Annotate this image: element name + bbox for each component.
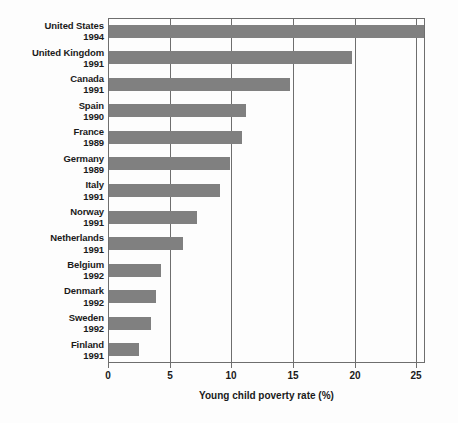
category-year: 1989 [0, 137, 104, 148]
category-label: United States1994 [0, 20, 104, 42]
bar [109, 290, 156, 303]
x-tick-15 [293, 363, 294, 368]
x-axis-title: Young child poverty rate (%) [108, 390, 425, 401]
category-year: 1991 [0, 350, 104, 361]
bar [109, 264, 161, 277]
bar [109, 237, 183, 250]
plot-frame-top [108, 18, 425, 19]
category-label: Canada1991 [0, 73, 104, 95]
x-tick-25 [416, 363, 417, 368]
category-label: Netherlands1991 [0, 232, 104, 254]
category-country: France [0, 126, 104, 137]
category-label: Norway1991 [0, 206, 104, 228]
x-tick-label: 10 [211, 370, 251, 381]
category-country: United Kingdom [0, 47, 104, 58]
category-country: Canada [0, 73, 104, 84]
category-year: 1994 [0, 31, 104, 42]
category-country: Italy [0, 179, 104, 190]
plot-frame-right [424, 18, 425, 363]
category-year: 1992 [0, 297, 104, 308]
bar [109, 184, 220, 197]
category-year: 1991 [0, 84, 104, 95]
plot-area [108, 18, 425, 363]
bar [109, 104, 246, 117]
category-country: Netherlands [0, 232, 104, 243]
x-tick-label: 15 [273, 370, 313, 381]
category-label: Denmark1992 [0, 285, 104, 307]
category-year: 1991 [0, 191, 104, 202]
category-label: Sweden1992 [0, 312, 104, 334]
bar [109, 343, 139, 356]
category-country: Spain [0, 100, 104, 111]
bar [109, 25, 424, 38]
x-tick-label: 25 [396, 370, 436, 381]
bar [109, 131, 242, 144]
gridline-20 [355, 18, 356, 363]
category-label: Finland1991 [0, 339, 104, 361]
category-year: 1989 [0, 164, 104, 175]
young-child-poverty-bar-chart: United States1994United Kingdom1991Canad… [0, 0, 458, 423]
category-country: Sweden [0, 312, 104, 323]
category-label: France1989 [0, 126, 104, 148]
category-label: Spain1990 [0, 100, 104, 122]
category-year: 1990 [0, 111, 104, 122]
x-tick-5 [170, 363, 171, 368]
x-tick-10 [231, 363, 232, 368]
category-year: 1992 [0, 270, 104, 281]
category-country: Finland [0, 339, 104, 350]
category-country: Belgium [0, 259, 104, 270]
gridline-25 [416, 18, 417, 363]
category-label: Italy1991 [0, 179, 104, 201]
bar [109, 78, 290, 91]
x-tick-label: 0 [88, 370, 128, 381]
category-country: Norway [0, 206, 104, 217]
x-tick-label: 5 [150, 370, 190, 381]
bar [109, 317, 151, 330]
category-year: 1991 [0, 58, 104, 69]
category-label: United Kingdom1991 [0, 47, 104, 69]
category-year: 1991 [0, 217, 104, 228]
category-country: Germany [0, 153, 104, 164]
bar [109, 51, 352, 64]
category-country: United States [0, 20, 104, 31]
bar [109, 157, 230, 170]
x-tick-label: 20 [335, 370, 375, 381]
category-label: Germany1989 [0, 153, 104, 175]
x-tick-20 [355, 363, 356, 368]
category-country: Denmark [0, 285, 104, 296]
x-tick-0 [108, 363, 109, 368]
gridline-15 [293, 18, 294, 363]
category-axis-labels: United States1994United Kingdom1991Canad… [0, 18, 104, 363]
gridline-10 [231, 18, 232, 363]
category-label: Belgium1992 [0, 259, 104, 281]
category-year: 1992 [0, 323, 104, 334]
category-year: 1991 [0, 244, 104, 255]
bar [109, 211, 197, 224]
x-axis-line [108, 362, 425, 363]
